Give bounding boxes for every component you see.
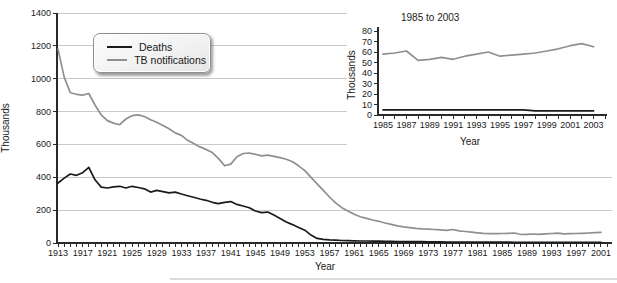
svg-text:1969: 1969	[394, 248, 414, 258]
svg-text:1000: 1000	[31, 74, 51, 84]
svg-text:20: 20	[362, 89, 372, 99]
svg-text:1989: 1989	[517, 248, 537, 258]
svg-text:80: 80	[362, 26, 372, 36]
svg-text:1913: 1913	[48, 248, 68, 258]
svg-text:1929: 1929	[147, 248, 167, 258]
svg-text:1957: 1957	[319, 248, 339, 258]
svg-text:2001: 2001	[591, 248, 611, 258]
svg-text:1925: 1925	[122, 248, 142, 258]
inset-x-axis-title: Year	[440, 136, 500, 147]
svg-text:30: 30	[362, 79, 372, 89]
svg-text:1981: 1981	[468, 248, 488, 258]
svg-text:1993: 1993	[467, 120, 487, 130]
svg-text:1917: 1917	[73, 248, 93, 258]
svg-text:0: 0	[367, 110, 372, 120]
scan-artifact	[170, 278, 617, 280]
svg-text:1945: 1945	[245, 248, 265, 258]
legend-label-deaths: Deaths	[139, 41, 172, 53]
svg-text:70: 70	[362, 37, 372, 47]
legend-label-tb-notifications: TB notifications	[134, 54, 206, 66]
svg-text:2001: 2001	[560, 120, 580, 130]
svg-text:10: 10	[362, 100, 372, 110]
svg-text:1933: 1933	[171, 248, 191, 258]
svg-text:1921: 1921	[97, 248, 117, 258]
svg-text:1977: 1977	[443, 248, 463, 258]
main-x-axis-title: Year	[295, 261, 355, 272]
svg-text:400: 400	[36, 172, 51, 182]
deaths-series-line	[383, 110, 594, 111]
inset-y-axis-title: Thousands	[346, 44, 360, 106]
svg-text:1953: 1953	[295, 248, 315, 258]
svg-text:40: 40	[362, 68, 372, 78]
svg-text:1989: 1989	[420, 120, 440, 130]
svg-text:1961: 1961	[344, 248, 364, 258]
svg-text:60: 60	[362, 47, 372, 57]
svg-text:1999: 1999	[537, 120, 557, 130]
svg-text:1985: 1985	[492, 248, 512, 258]
svg-text:1985: 1985	[373, 120, 393, 130]
deaths-series-line	[58, 167, 601, 242]
svg-text:50: 50	[362, 58, 372, 68]
tb-chart-figure: 0200400600800100012001400191319171921192…	[0, 0, 617, 283]
svg-text:2003: 2003	[584, 120, 604, 130]
svg-text:1987: 1987	[396, 120, 416, 130]
svg-text:1995: 1995	[490, 120, 510, 130]
svg-text:1973: 1973	[418, 248, 438, 258]
deaths-line-swatch	[107, 46, 132, 48]
tb-notifications-series-line	[383, 44, 594, 61]
inset-chart: 0102030405060708019851987198919911993199…	[347, 0, 617, 152]
svg-text:1937: 1937	[196, 248, 216, 258]
svg-text:1949: 1949	[270, 248, 290, 258]
tb-notifications-line-swatch	[107, 59, 127, 61]
svg-text:1993: 1993	[542, 248, 562, 258]
legend: Deaths TB notifications	[93, 33, 211, 73]
svg-text:800: 800	[36, 107, 51, 117]
svg-text:1200: 1200	[31, 41, 51, 51]
svg-text:1997: 1997	[566, 248, 586, 258]
legend-item-deaths: Deaths	[107, 40, 206, 53]
svg-text:1991: 1991	[443, 120, 463, 130]
main-y-axis-title: Thousands	[0, 97, 14, 159]
svg-text:0: 0	[46, 238, 51, 248]
svg-text:1941: 1941	[221, 248, 241, 258]
inset-panel: 1985 to 2003 010203040506070801985198719…	[347, 0, 617, 152]
svg-text:1965: 1965	[369, 248, 389, 258]
svg-text:600: 600	[36, 139, 51, 149]
svg-text:1997: 1997	[513, 120, 533, 130]
svg-text:200: 200	[36, 205, 51, 215]
svg-text:1400: 1400	[31, 8, 51, 18]
legend-item-tb-notifications: TB notifications	[107, 53, 206, 66]
